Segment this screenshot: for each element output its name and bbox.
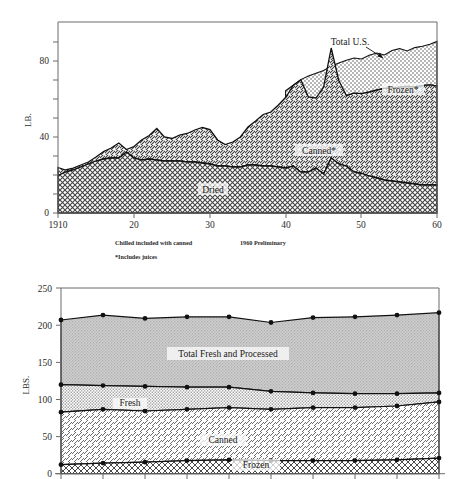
top-xtick-1910: 1910 (49, 220, 68, 230)
annotation-fresh-bottom: Fresh (113, 398, 147, 409)
bottom-ytick-50: 50 (43, 432, 53, 442)
top-chart: 0 40 80 LB. 1910 20 30 40 50 60 Total U.… (23, 22, 442, 260)
top-xtick-50: 50 (356, 220, 366, 230)
annotation-total-fresh-processed-label: Total Fresh and Processed (178, 349, 278, 359)
annotation-total-us-label: Total U.S. (331, 37, 370, 47)
annotation-canned-bottom-label: Canned (208, 435, 237, 445)
annotation-fresh-label: Fresh (119, 398, 140, 408)
annotation-frozen-bottom-label: Frozen (243, 460, 270, 470)
annotation-canned-label: Canned* (302, 146, 336, 156)
top-xtick-60: 60 (432, 220, 442, 230)
figure-root: 0 40 80 LB. 1910 20 30 40 50 60 Total U.… (0, 0, 450, 479)
bottom-ytick-200: 200 (38, 321, 53, 331)
bottom-chart: 0 50 100 150 200 250 LBS. Total Fresh an… (21, 284, 445, 479)
footnote-juices: *Includes juices (115, 253, 158, 260)
top-ytick-80: 80 (40, 56, 50, 66)
top-xtick-30: 30 (205, 220, 215, 230)
top-yaxis-title: LB. (23, 113, 33, 127)
bottom-ytick-0: 0 (47, 469, 52, 479)
annotation-canned: Canned* (295, 144, 343, 156)
top-xtick-20: 20 (129, 220, 139, 230)
bottom-ytick-250: 250 (38, 284, 53, 294)
annotation-total-fresh-processed: Total Fresh and Processed (167, 347, 289, 360)
band-canned-bottom (61, 402, 439, 465)
charts-svg: 0 40 80 LB. 1910 20 30 40 50 60 Total U.… (0, 0, 450, 479)
bottom-ytick-150: 150 (38, 358, 53, 368)
annotation-frozen-label: Frozen* (387, 85, 418, 95)
top-ytick-0: 0 (44, 208, 49, 218)
footnote-preliminary: 1960 Preliminary (240, 239, 287, 246)
bottom-yaxis-title: LBS. (21, 376, 31, 395)
annotation-frozen-bottom: Frozen (232, 459, 280, 471)
top-ytick-40: 40 (40, 132, 50, 142)
bottom-chart-bands (61, 313, 439, 474)
footnote-chilled: Chilled included with canned (115, 239, 193, 246)
top-chart-bands (58, 41, 437, 213)
annotation-frozen: Frozen* (382, 83, 424, 95)
bottom-ytick-100: 100 (38, 395, 53, 405)
annotation-canned-bottom: Canned (200, 434, 246, 446)
annotation-dried: Dried (198, 183, 228, 195)
annotation-dried-label: Dried (202, 185, 224, 195)
top-xtick-40: 40 (281, 220, 291, 230)
